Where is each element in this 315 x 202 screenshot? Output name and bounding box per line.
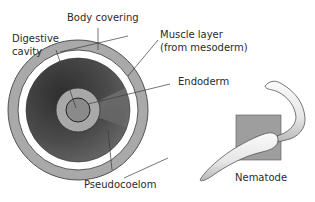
label-pseudocoelom: Pseudocoelom — [84, 179, 156, 190]
label-nematode: Nematode — [235, 172, 287, 183]
leader-muscle-layer — [128, 40, 158, 76]
label-digestive-cavity-1: Digestive — [12, 33, 59, 44]
digestive-cavity-region — [66, 98, 90, 122]
label-muscle-layer-1: Muscle layer — [160, 29, 224, 40]
label-digestive-cavity-2: cavity — [12, 46, 42, 57]
nematode-illustration — [200, 81, 305, 181]
cross-section — [8, 40, 148, 180]
label-body-covering: Body covering — [67, 12, 139, 23]
label-muscle-layer-2: (from mesoderm) — [160, 42, 248, 53]
leader-body-edge — [124, 158, 168, 178]
pseudocoelomate-diagram: Body covering Digestive cavity Muscle la… — [0, 0, 315, 202]
label-endoderm: Endoderm — [178, 76, 229, 87]
